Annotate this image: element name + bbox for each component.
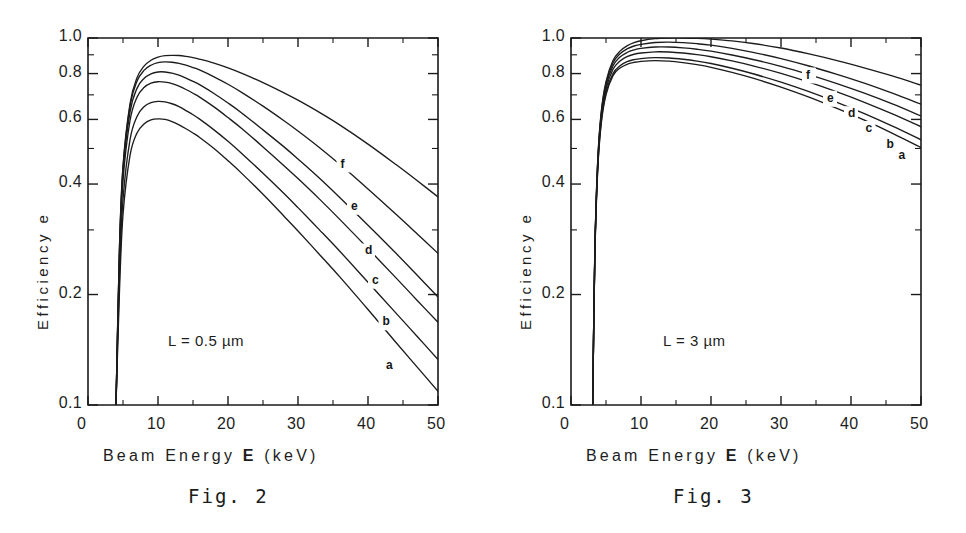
fig2-curve-e <box>116 62 438 405</box>
fig3-xtick-label: 30 <box>770 415 788 433</box>
fig3-xtick-label: 0 <box>560 415 569 433</box>
fig2-xtick-label: 50 <box>427 415 445 433</box>
fig2-curve-label-f: f <box>341 157 345 171</box>
fig2-xtick-label: 10 <box>147 415 165 433</box>
fig2-ytick-label: 0.4 <box>40 173 82 191</box>
fig2-curve-label-e: e <box>351 199 358 213</box>
fig2-xtick-label: 0 <box>77 415 86 433</box>
fig2-curve-c <box>116 82 438 405</box>
figure-fig3: Efficiency e Beam Energy E (keV) Fig. 3 … <box>483 0 966 533</box>
fig2-xtick-label: 40 <box>357 415 375 433</box>
figure-row: Efficiency e Beam Energy E (keV) Fig. 2 … <box>0 0 966 533</box>
fig2-ytick-label: 1.0 <box>40 27 82 45</box>
fig3-xtick-label: 50 <box>910 415 928 433</box>
fig2-ytick-label: 0.8 <box>40 63 82 81</box>
fig3-ytick-label: 0.6 <box>523 108 565 126</box>
fig3-xtick-label: 10 <box>630 415 648 433</box>
fig3-curve-label-c: c <box>866 121 873 135</box>
fig2-xtick-label: 30 <box>287 415 305 433</box>
fig2-curve-label-a: a <box>386 358 393 372</box>
fig3-x-axis-title: Beam Energy E (keV) <box>586 447 802 465</box>
fig3-x-axis-title-pre: Beam Energy <box>586 447 726 464</box>
fig3-ytick-label: 1.0 <box>523 27 565 45</box>
fig2-annotation: L = 0.5 µm <box>168 332 244 349</box>
figure-fig2: Efficiency e Beam Energy E (keV) Fig. 2 … <box>0 0 483 533</box>
fig2-xtick-label: 20 <box>217 415 235 433</box>
fig3-ytick-label: 0.1 <box>523 394 565 412</box>
fig3-curve-c <box>593 52 921 405</box>
fig3-xtick-label: 20 <box>700 415 718 433</box>
fig2-caption: Fig. 2 <box>188 485 269 507</box>
fig3-x-axis-title-post: (keV) <box>740 447 802 464</box>
fig2-ytick-label: 0.2 <box>40 284 82 302</box>
fig3-ytick-label: 0.2 <box>523 284 565 302</box>
fig2-x-axis-title: Beam Energy E (keV) <box>103 447 319 465</box>
fig2-curve-label-b: b <box>383 314 390 328</box>
fig3-curve-label-d: d <box>848 106 855 120</box>
fig2-y-axis-title: Efficiency e <box>34 212 51 330</box>
fig2-x-axis-title-pre: Beam Energy <box>103 447 243 464</box>
fig3-caption: Fig. 3 <box>673 485 754 507</box>
fig2-curve-label-d: d <box>365 243 372 257</box>
fig3-ytick-label: 0.8 <box>523 63 565 81</box>
fig3-xtick-label: 40 <box>840 415 858 433</box>
fig3-curve-b <box>593 58 921 405</box>
fig3-ytick-label: 0.4 <box>523 173 565 191</box>
fig3-y-axis-title: Efficiency e <box>517 212 534 330</box>
fig3-curve-label-a: a <box>898 148 905 162</box>
fig3-curve-a <box>593 61 921 405</box>
fig3-curve-d <box>593 47 921 405</box>
fig3-curve-label-f: f <box>806 68 810 82</box>
fig2-curve-d <box>116 72 438 405</box>
fig3-curve-label-e: e <box>827 91 834 105</box>
fig2-x-axis-title-post: (keV) <box>257 447 319 464</box>
fig2-curve-label-c: c <box>372 273 379 287</box>
fig2-curve-f <box>116 55 438 405</box>
fig3-x-axis-title-symbol: E <box>726 447 740 464</box>
fig2-ytick-label: 0.6 <box>40 108 82 126</box>
fig3-annotation: L = 3 µm <box>663 332 726 349</box>
fig2-x-axis-title-symbol: E <box>243 447 257 464</box>
fig3-curve-label-b: b <box>887 137 894 151</box>
fig3-curve-f <box>593 38 921 405</box>
fig2-ytick-label: 0.1 <box>40 394 82 412</box>
